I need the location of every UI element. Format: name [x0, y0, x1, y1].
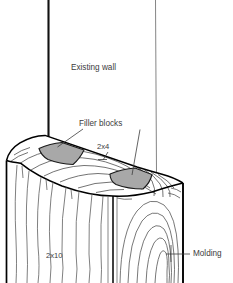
- label-filler-blocks: Filler blocks: [79, 119, 122, 128]
- label-molding: Molding: [193, 249, 222, 258]
- beam-right-face: [113, 183, 183, 283]
- technical-illustration: Existing wall Filler blocks 2x4 2x10 Mol…: [0, 0, 233, 283]
- label-2x4: 2x4: [97, 142, 109, 151]
- label-existing-wall: Existing wall: [71, 63, 116, 72]
- label-2x10: 2x10: [46, 251, 62, 260]
- wall-right-edge-line: [156, 0, 157, 173]
- beam-filler-block-drawing: Existing wall Filler blocks 2x4 2x10 Mol…: [0, 0, 233, 283]
